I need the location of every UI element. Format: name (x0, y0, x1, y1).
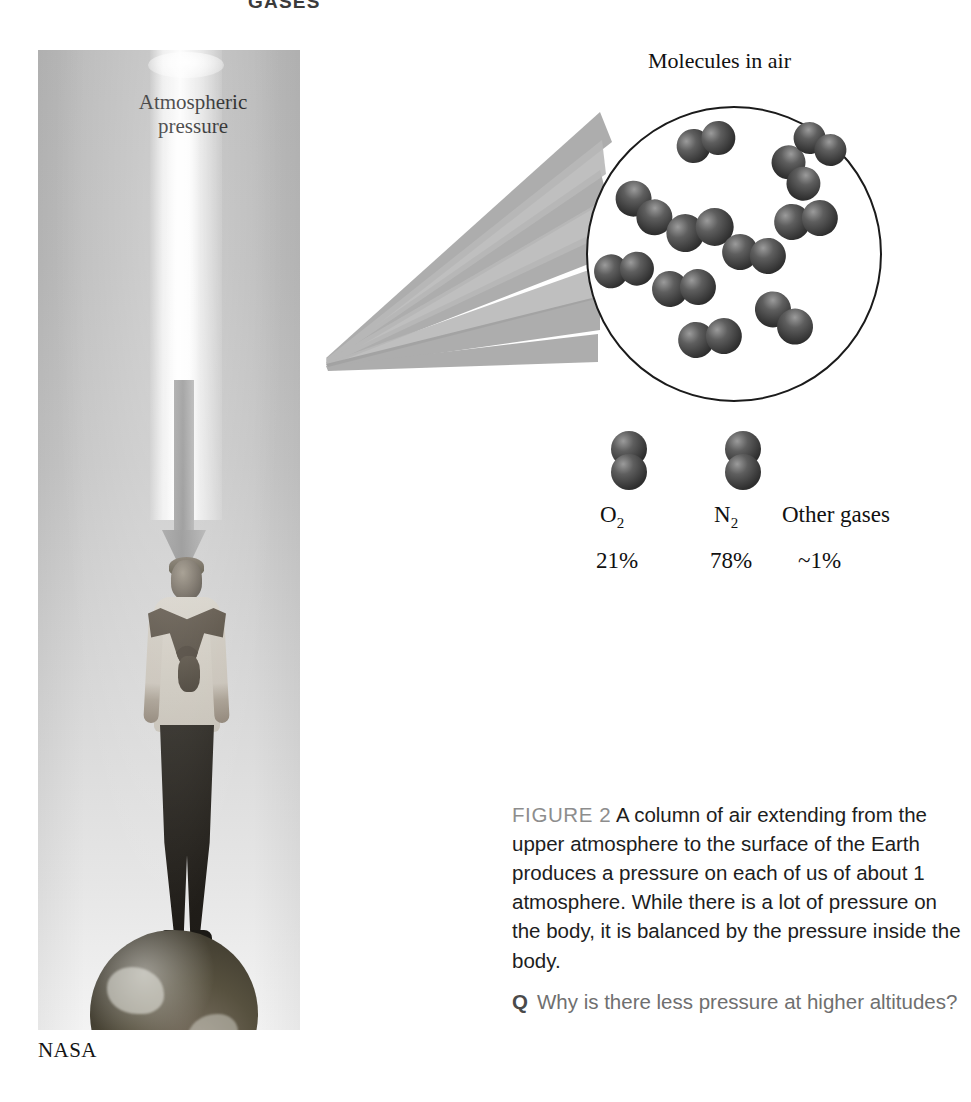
question-marker: Q (512, 988, 528, 1016)
molecules-in-air-title: Molecules in air (648, 48, 791, 74)
n2-molecule-icon (714, 430, 772, 492)
molecules-inside-circle (588, 108, 876, 396)
legend-percent-other-gases: ~1% (798, 548, 841, 574)
figure-question: Q Why is there less pressure at higher a… (512, 988, 962, 1016)
atmospheric-pressure-photo: Atmospheric pressure (38, 50, 300, 1030)
person-head (171, 560, 202, 600)
person-legs (160, 725, 214, 935)
figure-caption: FIGURE 2 A column of air extending from … (512, 800, 962, 975)
earth-globe (90, 930, 258, 1030)
figure-caption-text: A column of air extending from the upper… (512, 803, 961, 972)
running-head: GASES (248, 0, 321, 13)
legend-label-n2-text: N (714, 502, 731, 527)
legend-label-o2-sub: 2 (617, 515, 625, 531)
air-column-top-cap (148, 52, 224, 78)
legend-percent-o2: 21% (596, 548, 638, 574)
o2-molecule-icon (600, 430, 658, 492)
molecule-magnifier-circle (586, 106, 882, 402)
legend-label-other-gases: Other gases (782, 502, 890, 528)
legend-label-n2: N2 (714, 502, 738, 532)
atmospheric-pressure-label-line1: Atmospheric (98, 90, 288, 114)
legend-percent-n2: 78% (710, 548, 752, 574)
figure-caption-tag: FIGURE 2 (512, 803, 611, 826)
legend-label-o2-text: O (600, 502, 617, 527)
downward-pressure-arrow-icon (156, 380, 212, 580)
legend-label-o2: O2 (600, 502, 624, 532)
photo-credit: NASA (38, 1038, 97, 1063)
legend-label-n2-sub: 2 (731, 515, 739, 531)
question-text: Why is there less pressure at higher alt… (537, 988, 962, 1016)
atmospheric-pressure-label: Atmospheric pressure (98, 90, 288, 138)
atmospheric-pressure-label-line2: pressure (98, 114, 288, 138)
person-sweater-knot (178, 656, 200, 692)
